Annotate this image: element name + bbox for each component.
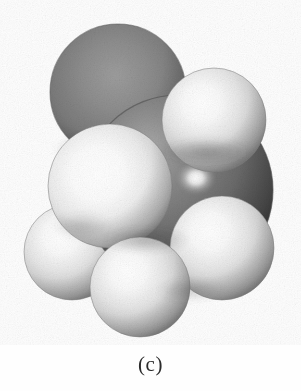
space-filling-model-svg — [0, 0, 301, 345]
figure-caption: (c) — [0, 350, 301, 378]
molecular-model-figure: (c) — [0, 0, 301, 391]
molecule-illustration — [0, 0, 301, 345]
